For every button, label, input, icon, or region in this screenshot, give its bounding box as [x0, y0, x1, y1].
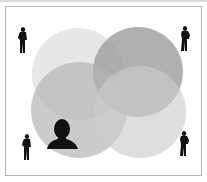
circle-bottom-right: [94, 66, 186, 158]
standing-person-icon-bottom-left: [22, 134, 31, 160]
standing-person-icon-top-right: [181, 26, 190, 51]
venn-circles: [31, 27, 186, 158]
standing-person-icon-top-left: [18, 27, 27, 53]
venn-diagram: [0, 0, 207, 182]
standing-person-icon-bottom-right: [180, 131, 189, 156]
